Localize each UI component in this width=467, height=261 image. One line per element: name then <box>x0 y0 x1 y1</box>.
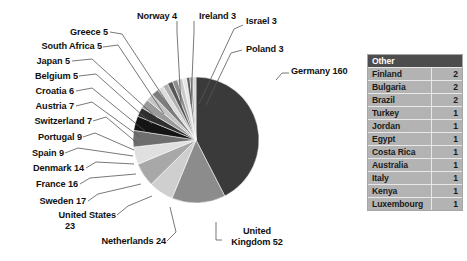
legend-row-name: Kenya <box>368 185 432 198</box>
legend-row: Luxembourg1 <box>368 198 462 211</box>
legend-row: Bulgaria2 <box>368 81 462 94</box>
legend-row-value: 2 <box>432 68 463 81</box>
legend-row-value: 1 <box>432 198 463 211</box>
legend-row-name: Luxembourg <box>368 198 432 211</box>
label-belgium: Belgium 5 <box>4 71 78 82</box>
legend-body: Finland2Bulgaria2Brazil2Turkey1Jordan1Eg… <box>368 68 462 211</box>
leader-portugal <box>83 133 134 150</box>
label-france: France 16 <box>6 179 78 190</box>
legend-header-cell: Other <box>368 55 462 68</box>
leader-netherlands <box>167 207 176 241</box>
legend-row-value: 1 <box>432 159 463 172</box>
label-switzerland: Switzerland 7 <box>2 116 92 127</box>
legend-row: Australia1 <box>368 159 462 172</box>
label-croatia: Croatia 6 <box>4 86 74 97</box>
legend-row-name: Bulgaria <box>368 81 432 94</box>
label-austria: Austria 7 <box>4 101 74 112</box>
label-poland: Poland 3 <box>246 44 284 55</box>
label-japan: Japan 5 <box>4 56 70 67</box>
label-germany: Germany 160 <box>291 66 348 77</box>
label-spain: Spain 9 <box>6 148 64 159</box>
legend-row-name: Turkey <box>368 107 432 120</box>
legend-row-name: Jordan <box>368 120 432 133</box>
label-us-line2: 23 <box>50 221 90 232</box>
legend-row: Kenya1 <box>368 185 462 198</box>
legend-row-value: 1 <box>432 107 463 120</box>
legend-row-value: 2 <box>432 94 463 107</box>
legend-row: Italy1 <box>368 172 462 185</box>
label-norway: Norway 4 <box>137 11 177 22</box>
legend-row: Brazil2 <box>368 94 462 107</box>
label-uk-line1: United <box>222 226 292 237</box>
legend-row: Jordan1 <box>368 120 462 133</box>
label-sweden: Sweden 17 <box>10 196 86 207</box>
legend-row-value: 1 <box>432 185 463 198</box>
label-portugal: Portugal 9 <box>4 132 82 143</box>
legend-row: Finland2 <box>368 68 462 81</box>
label-denmark: Denmark 14 <box>2 163 84 174</box>
label-south-africa: South Africa 5 <box>12 41 102 52</box>
legend-row-value: 1 <box>432 120 463 133</box>
chart-canvas: Germany 160 United Kingdom 52 Netherland… <box>0 0 467 261</box>
legend-row: Egypt1 <box>368 133 462 146</box>
label-us-line1: United States <box>18 210 116 221</box>
leader-denmark <box>86 162 134 168</box>
label-netherlands: Netherlands 24 <box>60 236 166 247</box>
legend-row-value: 1 <box>432 133 463 146</box>
legend-table: Other Finland2Bulgaria2Brazil2Turkey1Jor… <box>368 55 462 210</box>
label-uk-line2: Kingdom 52 <box>222 237 292 248</box>
label-ireland: Ireland 3 <box>199 11 236 22</box>
leader-germany <box>276 73 289 80</box>
legend-header-row: Other <box>368 55 462 68</box>
legend-row-name: Australia <box>368 159 432 172</box>
legend-row-name: Egypt <box>368 133 432 146</box>
leader-spain <box>65 148 133 156</box>
legend-row-value: 1 <box>432 146 463 159</box>
leader-us <box>117 196 152 215</box>
legend-row: Costa Rica1 <box>368 146 462 159</box>
legend-row-name: Brazil <box>368 94 432 107</box>
label-israel: Israel 3 <box>246 16 277 27</box>
legend-row-name: Costa Rica <box>368 146 432 159</box>
other-legend-table: Other Finland2Bulgaria2Brazil2Turkey1Jor… <box>367 54 463 211</box>
legend-row-name: Italy <box>368 172 432 185</box>
leader-sweden <box>88 184 141 201</box>
legend-row-value: 2 <box>432 81 463 94</box>
legend-row: Turkey1 <box>368 107 462 120</box>
label-greece: Greece 5 <box>40 27 108 38</box>
legend-row-name: Finland <box>368 68 432 81</box>
leader-france <box>80 174 136 184</box>
legend-row-value: 1 <box>432 172 463 185</box>
